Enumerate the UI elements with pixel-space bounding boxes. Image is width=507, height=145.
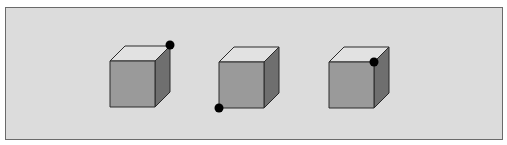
cube-3 xyxy=(329,47,389,108)
vertex-dot-bottom-front-left xyxy=(215,104,224,113)
cube-2 xyxy=(215,47,280,113)
vertex-dot-top-front-right xyxy=(370,58,379,67)
vertex-dot-top-back-right xyxy=(166,41,175,50)
cube-front-face xyxy=(110,61,155,107)
cube-1 xyxy=(110,41,175,108)
cubes-diagram xyxy=(0,0,507,145)
cube-front-face xyxy=(329,62,374,108)
cube-front-face xyxy=(219,62,264,108)
